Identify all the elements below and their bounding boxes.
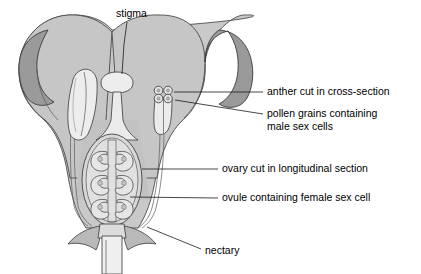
pollen-dot-1 — [157, 89, 160, 92]
ovule-nucleus-r2 — [122, 181, 127, 186]
ovule-nucleus-r3 — [122, 205, 127, 210]
nectary-region — [68, 224, 156, 274]
flower-illustration: stigma anther cut in cross-section polle… — [0, 0, 421, 274]
label-ovary-longitudinal: ovary cut in longitudinal section — [222, 162, 368, 174]
right-petal-inner-curl — [205, 30, 253, 107]
label-pollen-grains-line2: male sex cells — [267, 120, 333, 132]
flower-diagram: stigma anther cut in cross-section polle… — [0, 0, 421, 274]
pollen-dot-4 — [167, 97, 170, 100]
label-stigma: stigma — [116, 7, 147, 19]
label-pollen-grains-line1: pollen grains containing — [267, 107, 377, 119]
label-nectary: nectary — [205, 244, 240, 256]
nectary-right-spur — [124, 226, 156, 250]
label-ovule: ovule containing female sex cell — [222, 191, 370, 203]
pollen-dot-3 — [157, 97, 160, 100]
ovule-nucleus-r1 — [122, 157, 127, 162]
stigma-cap — [101, 72, 133, 93]
ovule-nucleus-l3 — [98, 205, 103, 210]
nectary-left-spur — [68, 226, 100, 250]
ovule-nucleus-l2 — [98, 181, 103, 186]
flower-stalk — [102, 236, 122, 274]
label-anther-cross-section: anther cut in cross-section — [267, 85, 390, 97]
leader-nectary — [147, 227, 201, 249]
pollen-dot-2 — [167, 89, 170, 92]
ovule-nucleus-l1 — [98, 157, 103, 162]
